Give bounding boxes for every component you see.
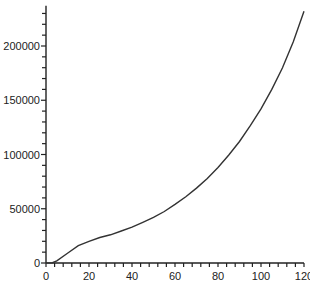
y-axis: 050000100000150000200000 — [3, 6, 46, 269]
line-chart: 050000100000150000200000 020406080100120 — [0, 0, 310, 292]
x-tick-label: 0 — [43, 270, 49, 282]
x-tick-label: 120 — [295, 270, 310, 282]
x-axis: 020406080100120 — [43, 263, 310, 282]
x-tick-label: 60 — [169, 270, 181, 282]
y-tick-label: 150000 — [3, 94, 40, 106]
x-tick-label: 100 — [252, 270, 270, 282]
x-tick-label: 40 — [126, 270, 138, 282]
y-tick-label: 0 — [34, 257, 40, 269]
y-tick-label: 200000 — [3, 40, 40, 52]
x-tick-label: 20 — [83, 270, 95, 282]
y-tick-label: 50000 — [9, 203, 40, 215]
x-tick-label: 80 — [212, 270, 224, 282]
data-line — [46, 11, 304, 263]
y-tick-label: 100000 — [3, 149, 40, 161]
